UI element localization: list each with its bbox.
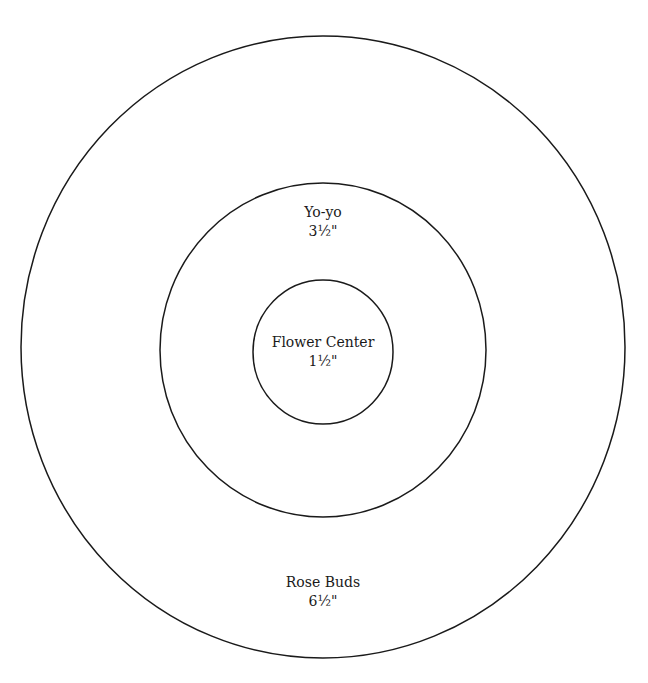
- yo-yo-size: 3½": [223, 222, 423, 241]
- rose-buds-name: Rose Buds: [223, 573, 423, 592]
- flower-center-size: 1½": [223, 352, 423, 371]
- flower-center-label: Flower Center 1½": [223, 333, 423, 371]
- flower-center-name: Flower Center: [223, 333, 423, 352]
- rose-buds-label: Rose Buds 6½": [223, 573, 423, 611]
- yo-yo-label: Yo-yo 3½": [223, 203, 423, 241]
- diagram-canvas: Yo-yo 3½" Flower Center 1½" Rose Buds 6½…: [0, 0, 648, 683]
- yo-yo-name: Yo-yo: [223, 203, 423, 222]
- rose-buds-size: 6½": [223, 592, 423, 611]
